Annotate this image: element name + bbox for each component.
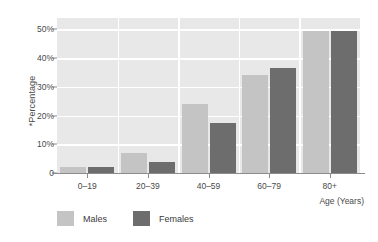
bar-males-4: [303, 31, 329, 173]
y-tick-label: 20%: [14, 111, 54, 121]
x-tick-mark: [209, 173, 210, 178]
legend-label-males: Males: [83, 214, 107, 224]
legend-swatch-females: [133, 211, 150, 226]
bar-females-2: [210, 123, 236, 173]
bars-layer: [57, 18, 360, 173]
chart-legend: MalesFemales: [57, 211, 220, 226]
bar-females-4: [331, 31, 357, 173]
legend-label-females: Females: [159, 214, 194, 224]
legend-swatch-males: [57, 211, 74, 226]
x-tick-label: 60–79: [234, 181, 304, 191]
y-tick-label: 0: [14, 168, 54, 178]
legend-item-females: Females: [133, 211, 194, 226]
x-tick-label: 40–59: [174, 181, 244, 191]
x-tick-label: 80+: [295, 181, 365, 191]
bar-males-3: [242, 75, 268, 173]
bar-males-2: [182, 104, 208, 173]
x-axis-title: Age (Years): [319, 196, 364, 206]
bar-females-1: [149, 162, 175, 173]
bar-males-1: [121, 153, 147, 173]
y-tick-label: 50%: [14, 24, 54, 34]
x-tick-mark: [269, 173, 270, 178]
y-axis-title: *Percentage: [27, 31, 37, 171]
y-tick-label: 30%: [14, 82, 54, 92]
x-tick-mark: [148, 173, 149, 178]
x-tick-label: 20–39: [113, 181, 183, 191]
y-tick-label: 40%: [14, 53, 54, 63]
x-tick-mark: [87, 173, 88, 178]
bar-chart-figure: *Percentage 010%20%30%40%50% 0–1920–3940…: [0, 0, 378, 242]
y-tick-label: 10%: [14, 139, 54, 149]
x-tick-label: 0–19: [52, 181, 122, 191]
bar-females-3: [270, 68, 296, 173]
x-tick-mark: [330, 173, 331, 178]
legend-item-males: Males: [57, 211, 107, 226]
